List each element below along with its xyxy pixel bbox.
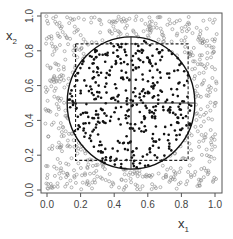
data-point [184,45,187,48]
data-point [76,56,79,59]
data-point [135,52,138,55]
data-point [175,134,178,137]
data-point [189,174,192,177]
data-point [151,111,154,114]
data-point [198,58,201,61]
data-point [61,150,64,153]
data-point [181,100,184,103]
data-point [125,114,128,117]
data-point [114,29,117,32]
data-point [134,123,137,126]
data-point [125,54,128,57]
data-point [110,185,113,188]
data-point [138,127,141,130]
data-point [99,140,102,143]
data-point [180,27,183,30]
data-point [96,175,99,178]
data-point [127,149,130,152]
data-point [191,32,194,35]
data-point [66,16,69,19]
data-point [174,113,177,116]
data-point [199,108,202,111]
data-point [208,18,211,21]
data-point [105,156,108,159]
data-point [194,170,197,173]
data-point [65,176,68,179]
data-point [151,65,154,68]
data-point [127,174,130,177]
data-point [154,109,157,112]
data-point [200,153,203,156]
data-point [156,156,159,159]
data-point [115,87,118,90]
data-point [58,80,61,83]
data-point [213,40,216,43]
data-point [125,71,128,74]
data-point [114,63,117,66]
data-point [95,56,98,59]
data-point [82,129,85,132]
data-point [213,18,216,21]
data-point [88,90,91,93]
data-point [50,42,53,45]
data-point [63,86,66,89]
data-point [100,151,103,154]
data-point [82,52,85,55]
data-point [59,177,62,180]
data-point [47,22,50,25]
data-point [125,117,128,120]
data-point [119,58,122,61]
data-point [52,17,55,20]
data-point [81,63,84,66]
data-point [123,173,126,176]
data-point [77,128,80,131]
data-point [128,79,131,82]
data-point [187,16,190,19]
data-point [186,180,189,183]
data-point [91,164,94,167]
data-point [202,176,205,179]
data-point [184,25,187,28]
data-point [199,115,202,118]
data-point [82,38,85,41]
data-point [105,76,108,79]
data-point [176,32,179,35]
data-point [57,127,60,130]
data-point [48,147,51,150]
data-point [79,34,82,37]
data-point [202,19,205,22]
data-point [166,168,169,171]
data-point [143,40,146,43]
data-point [180,114,183,117]
data-point [135,15,138,18]
data-point [161,49,164,52]
data-point [67,77,70,80]
data-point [171,28,174,31]
data-point [95,49,98,52]
data-point [88,137,91,140]
data-point [178,133,181,136]
data-point [117,140,120,143]
data-point [97,67,100,70]
data-point [53,50,56,53]
data-point [142,78,145,81]
data-point [174,129,177,132]
data-point [138,96,141,99]
data-point [124,148,127,151]
data-point [139,162,142,165]
data-point [117,94,120,97]
data-point [205,148,208,151]
data-point [131,104,134,107]
data-point [142,155,145,158]
data-point [206,57,209,60]
data-point [188,164,191,167]
data-point [177,95,180,98]
y-axis-label: x2 [6,28,18,46]
data-point [139,111,142,114]
data-point [110,66,113,69]
data-point [90,16,93,19]
data-point [137,45,140,48]
data-point [142,49,145,52]
data-point [211,66,214,69]
data-point [147,80,150,83]
